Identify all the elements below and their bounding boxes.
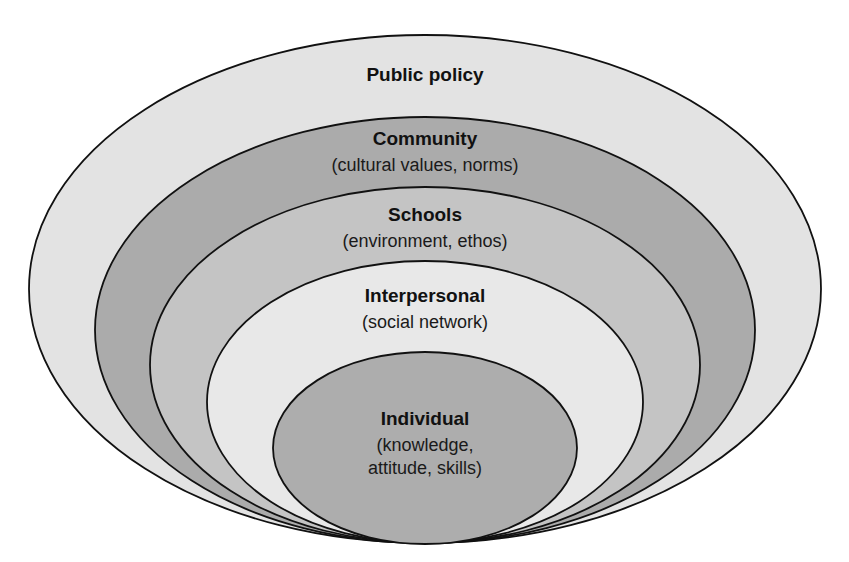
individual-subtitle-line2: attitude, skills) xyxy=(368,458,482,478)
individual-subtitle-line1: (knowledge, xyxy=(376,435,473,455)
schools-title: Schools xyxy=(388,204,462,225)
community-title: Community xyxy=(373,128,478,149)
community-subtitle: (cultural values, norms) xyxy=(331,155,518,175)
interpersonal-title: Interpersonal xyxy=(365,285,485,306)
nested-ellipse-diagram: Public policy Community (cultural values… xyxy=(0,0,849,562)
individual-title: Individual xyxy=(381,408,470,429)
interpersonal-subtitle: (social network) xyxy=(362,312,488,332)
public-policy-title: Public policy xyxy=(366,64,484,85)
schools-subtitle: (environment, ethos) xyxy=(342,231,507,251)
